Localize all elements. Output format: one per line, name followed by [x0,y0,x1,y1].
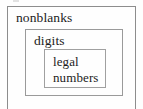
set-label-legal-numbers-line-2: numbers [53,71,98,85]
figure-canvas: nonblanks digits legal numbers [0,0,143,109]
scan-artifact [13,0,19,2]
set-label-legal-numbers-line-1: legal [53,55,98,69]
set-label-digits: digits [34,34,65,48]
set-label-nonblanks: nonblanks [16,11,72,25]
set-label-legal-numbers: legal numbers [53,55,98,84]
